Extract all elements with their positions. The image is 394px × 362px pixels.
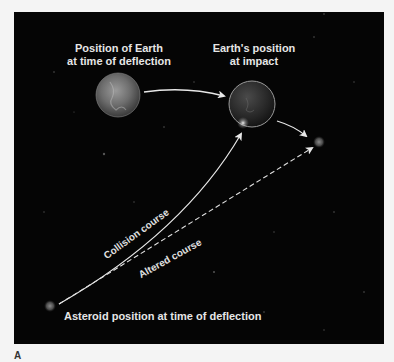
asteroid-altered-endpoint <box>313 136 325 148</box>
earth-orbit-arrow <box>144 90 224 96</box>
label-line: Earth's position <box>204 42 304 55</box>
earth-continuation-arrow <box>277 121 306 136</box>
label-line: Position of Earth <box>64 42 174 55</box>
label-earth-deflection: Position of Earth at time of deflection <box>64 42 174 68</box>
label-line: at time of deflection <box>64 55 174 68</box>
altered-course-path <box>59 148 312 304</box>
earth-at-deflection <box>96 73 140 117</box>
earth-at-impact <box>229 81 275 127</box>
diagram-panel: Position of Earth at time of deflection … <box>14 12 384 344</box>
label-earth-impact: Earth's position at impact <box>204 42 304 68</box>
figure-panel-letter: A <box>14 350 21 361</box>
impact-glow <box>237 117 249 129</box>
label-line: at impact <box>204 55 304 68</box>
label-asteroid-start: Asteroid position at time of deflection <box>64 310 261 323</box>
asteroid-at-deflection <box>44 300 56 312</box>
